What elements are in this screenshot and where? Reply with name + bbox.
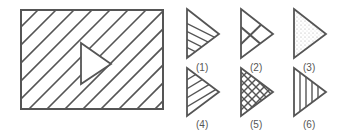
option-2-triangle[interactable]: [235, 9, 273, 58]
figure-canvas: (1) (2) (3) (4): [0, 0, 339, 131]
option-6-label: (6): [303, 119, 315, 130]
option-2-label: (2): [250, 62, 262, 73]
option-1-label: (1): [196, 62, 208, 73]
option-5-label: (5): [250, 119, 262, 130]
option-3-label: (3): [303, 62, 315, 73]
option-4-label: (4): [196, 119, 208, 130]
option-3-triangle[interactable]: [294, 9, 326, 58]
